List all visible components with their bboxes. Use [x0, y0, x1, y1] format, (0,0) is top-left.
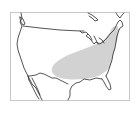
range-map	[0, 0, 135, 114]
